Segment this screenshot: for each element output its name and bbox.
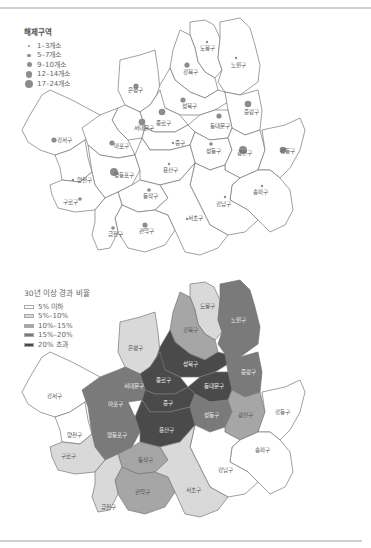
district-nowon xyxy=(218,18,260,95)
map1-bubble-map: 도봉구 노원구 강북구 은평구 성북구 종로구 중랑구 서대문구 동대문구 강서… xyxy=(0,0,371,270)
label-seongdong: 성동구 xyxy=(206,147,221,155)
label-gwangjin: 광진구 xyxy=(237,149,252,157)
label-geumcheon: 금천구 xyxy=(101,503,116,511)
label-dobong: 도봉구 xyxy=(200,45,215,52)
label-gwanak: 관악구 xyxy=(135,488,150,496)
label-guro: 구로구 xyxy=(61,453,76,460)
label-dongdaemun: 동대문구 xyxy=(204,382,224,390)
label-eunpyeong: 은평구 xyxy=(128,345,143,352)
label-gwanak: 관악구 xyxy=(139,227,154,235)
label-guro: 구로구 xyxy=(63,199,78,206)
map2-choropleth-map: 도봉구 노원구 강북구 은평구 성북구 종로구 중랑구 서대문구 동대문구 강서… xyxy=(0,262,371,532)
label-gangbuk: 강북구 xyxy=(183,327,198,334)
label-dobong: 도봉구 xyxy=(200,303,215,310)
label-songpa: 송파구 xyxy=(255,446,270,454)
label-gangdong: 강동구 xyxy=(280,148,295,155)
label-gangseo: 강서구 xyxy=(57,136,72,144)
label-yangcheon: 양천구 xyxy=(77,176,92,184)
label-junggu: 중구 xyxy=(163,400,173,407)
label-mapo: 마포구 xyxy=(114,142,129,150)
label-jungnang: 중랑구 xyxy=(241,369,256,376)
label-geumcheon: 금천구 xyxy=(108,230,123,238)
label-yeongdeungpo: 영등포구 xyxy=(107,431,127,439)
label-seongbuk: 성북구 xyxy=(183,360,198,368)
label-seocho: 서초구 xyxy=(188,214,203,222)
label-dongdaemun: 동대문구 xyxy=(210,122,230,130)
label-songpa: 송파구 xyxy=(253,188,268,196)
label-yeongdeungpo: 영등포구 xyxy=(114,171,134,179)
label-gangbuk: 강북구 xyxy=(183,69,198,76)
label-gangnam: 강남구 xyxy=(218,466,233,474)
label-gwangjin: 광진구 xyxy=(238,411,253,419)
label-seodaemun: 서대문구 xyxy=(134,124,154,132)
label-dongjak: 동작구 xyxy=(143,193,158,200)
label-mapo: 마포구 xyxy=(108,400,123,408)
label-jongno: 종로구 xyxy=(156,120,171,127)
label-nowon: 노원구 xyxy=(231,316,246,324)
label-yangcheon: 양천구 xyxy=(67,431,82,439)
label-gangnam: 강남구 xyxy=(216,200,231,208)
label-dongjak: 동작구 xyxy=(138,457,153,464)
label-jungnang: 중랑구 xyxy=(244,109,259,116)
label-yongsan: 용산구 xyxy=(159,426,174,434)
label-nowon: 노원구 xyxy=(231,61,246,69)
label-junggu: 중구 xyxy=(175,140,185,147)
label-seodaemun: 서대문구 xyxy=(124,382,144,390)
label-gangseo: 강서구 xyxy=(47,392,62,400)
label-jongno: 종로구 xyxy=(156,377,171,384)
label-yongsan: 용산구 xyxy=(163,166,178,174)
label-seocho: 서초구 xyxy=(186,486,201,494)
label-seongbuk: 성북구 xyxy=(182,102,197,110)
label-gangdong: 강동구 xyxy=(275,409,290,416)
label-seongdong: 성동구 xyxy=(204,411,219,419)
label-eunpyeong: 은평구 xyxy=(128,87,143,94)
bottom-divider xyxy=(0,540,362,542)
